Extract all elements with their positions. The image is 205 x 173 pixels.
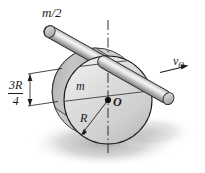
offset-dimension-label: 3R 4: [8, 79, 23, 107]
velocity-label: vO: [173, 55, 184, 70]
center-point-label: O: [113, 96, 122, 108]
velocity-subscript: O: [178, 61, 184, 70]
center-point-marker: [105, 97, 111, 103]
radius-label: R: [80, 112, 87, 124]
offset-denominator: 4: [12, 94, 20, 108]
rod-mass-label: m/2: [42, 6, 62, 19]
diagram-canvas: [0, 0, 205, 173]
figure-container: m/2 m O R vO 3R 4: [0, 0, 205, 173]
disk-mass-label: m: [76, 80, 85, 92]
offset-numerator: 3R: [8, 79, 23, 93]
